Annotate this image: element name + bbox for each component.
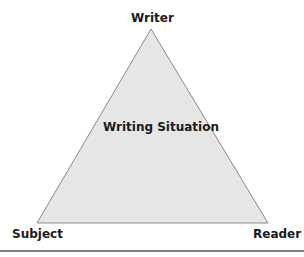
vertex-label-subject: Subject [12,227,63,241]
center-label: Writing Situation [103,120,219,134]
vertex-label-writer: Writer [131,11,174,25]
vertex-label-reader: Reader [253,227,301,241]
